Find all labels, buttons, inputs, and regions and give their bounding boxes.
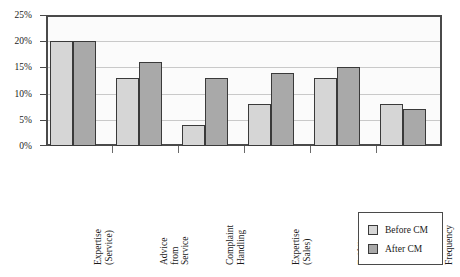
x-tick-mark — [310, 146, 311, 153]
bar-group — [376, 15, 442, 146]
x-axis-label: AdvicefromService — [159, 153, 177, 265]
bar-before-cm — [116, 78, 139, 146]
y-tick-label: 0% — [19, 141, 32, 151]
chart-legend: Before CMAfter CM — [358, 212, 443, 265]
bar-group — [310, 15, 376, 146]
legend-swatch-before-icon — [368, 225, 378, 235]
bar-after-cm — [205, 78, 228, 146]
legend-item[interactable]: Before CM — [368, 220, 442, 239]
bar-group — [178, 15, 244, 146]
bar-before-cm — [380, 104, 403, 146]
y-tick-label: 5% — [19, 115, 32, 125]
y-tick-label: 15% — [15, 62, 32, 72]
x-axis-label-line: Complaint — [225, 225, 236, 265]
x-axis-label-line: (Service) — [104, 230, 115, 265]
x-tick-mark — [112, 146, 113, 153]
bar-group — [244, 15, 310, 146]
bar-before-cm — [314, 78, 337, 146]
legend-item[interactable]: After CM — [368, 239, 442, 258]
x-axis-label-line: Handling — [236, 230, 247, 265]
legend-swatch-after-icon — [368, 244, 378, 254]
y-tick-label: 10% — [15, 89, 32, 99]
x-axis-label-line: Expertise — [291, 229, 302, 265]
x-axis-label: ComplaintHandling — [225, 153, 243, 265]
bar-after-cm — [139, 62, 162, 146]
x-axis-label-line: (Sales) — [302, 239, 313, 265]
y-tick-label: 20% — [15, 36, 32, 46]
bar-before-cm — [182, 125, 205, 146]
bar-chart: 0%5%10%15%20%25% Expertise(Service)Advic… — [0, 0, 460, 277]
legend-label: After CM — [385, 244, 422, 254]
x-axis-ticks — [46, 146, 442, 153]
y-tick-label: 25% — [15, 10, 32, 20]
bar-group — [46, 15, 112, 146]
x-axis-label-line: Service — [180, 237, 191, 266]
bar-after-cm — [403, 109, 426, 146]
x-axis-label-line: Frequency — [444, 225, 455, 265]
x-tick-mark — [244, 146, 245, 153]
bar-before-cm — [248, 104, 271, 146]
bar-group — [112, 15, 178, 146]
x-axis-label: Expertise(Sales) — [291, 153, 309, 265]
x-tick-mark — [178, 146, 179, 153]
legend-label: Before CM — [385, 225, 428, 235]
bar-before-cm — [50, 41, 73, 146]
bar-after-cm — [337, 67, 360, 146]
x-axis-label-line: from — [170, 247, 181, 265]
y-axis: 0%5%10%15%20%25% — [0, 15, 40, 146]
x-axis-label: Expertise(Service) — [93, 153, 111, 265]
bar-after-cm — [271, 73, 294, 146]
bar-after-cm — [73, 41, 96, 146]
x-axis-label-line: Advice — [159, 238, 170, 265]
bars-layer — [46, 15, 442, 146]
x-tick-mark — [376, 146, 377, 153]
x-axis-label-line: Expertise — [93, 229, 104, 265]
